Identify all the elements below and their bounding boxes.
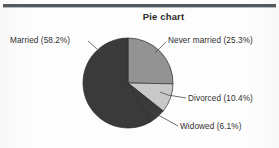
leader-line-married: [88, 41, 97, 49]
slice-label-never-married: Never married (25.3%): [168, 36, 253, 45]
leader-line-never-married: [155, 42, 166, 53]
pie-slice-never-married: [128, 38, 173, 84]
slice-label-divorced: Divorced (10.4%): [188, 94, 253, 103]
slice-label-widowed: Widowed (6.1%): [180, 122, 241, 131]
slice-label-married: Married (58.2%): [10, 36, 70, 45]
pie-wedges: [83, 38, 173, 128]
pie-chart-figure: Pie chart Married (58.2%) Never married …: [0, 0, 279, 148]
